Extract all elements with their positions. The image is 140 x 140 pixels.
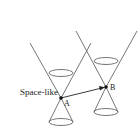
event-b-point: [104, 85, 108, 89]
light-cone-a: [30, 43, 91, 126]
space-like-arrow: [61, 86, 105, 98]
light-cone-b: [76, 31, 137, 116]
diagram-canvas: [0, 0, 140, 140]
event-a-label: A: [64, 100, 70, 108]
light-cone-diagram: Space-like A B: [0, 0, 140, 140]
event-b-label: B: [110, 84, 115, 92]
space-like-label: Space-like: [20, 88, 58, 97]
event-a-point: [59, 96, 63, 100]
